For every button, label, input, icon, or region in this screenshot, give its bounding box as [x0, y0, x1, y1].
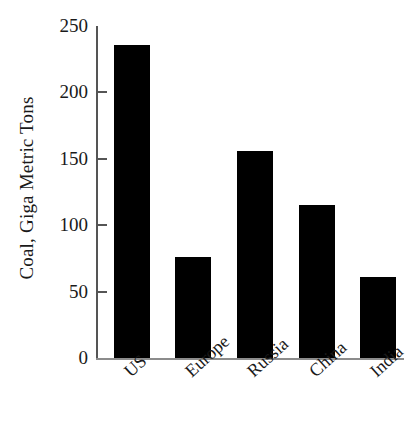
y-tick-label: 50 — [69, 281, 88, 303]
plot-area: 050100150200250 USEuropeRussiaChinaIndia — [96, 26, 404, 360]
bar-russia — [237, 151, 273, 358]
y-axis-spine — [96, 26, 98, 360]
bar-us — [114, 45, 150, 358]
y-axis-title: Coal, Giga Metric Tons — [10, 8, 44, 368]
bar-chart-figure: Coal, Giga Metric Tons 050100150200250 U… — [0, 0, 419, 438]
y-tick-label: 250 — [60, 15, 89, 37]
y-tick-mark — [98, 158, 107, 160]
y-tick-mark — [98, 291, 107, 293]
y-tick-label: 0 — [79, 347, 89, 369]
y-tick-label: 200 — [60, 81, 89, 103]
bar-china — [299, 205, 335, 358]
y-tick-mark — [98, 91, 107, 93]
y-tick-label: 100 — [60, 214, 89, 236]
y-tick-mark — [98, 224, 107, 226]
y-tick-label: 150 — [60, 148, 89, 170]
